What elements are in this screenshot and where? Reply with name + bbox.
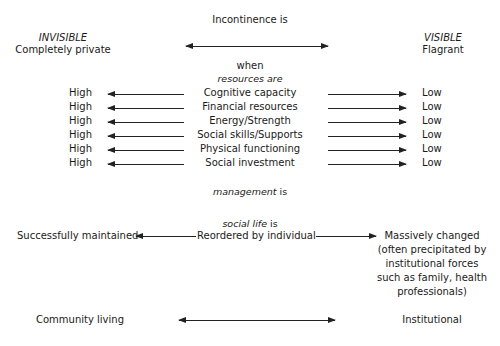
massively-changed-line: (often precipitated by [378, 244, 487, 256]
completely-private-label: Completely private [15, 44, 110, 56]
right-arrow [328, 94, 406, 95]
left-arrow [108, 108, 184, 109]
arrowhead-right-icon [399, 133, 407, 139]
resources-are-label: resources are [217, 73, 282, 85]
arrowhead-left-icon [107, 161, 115, 167]
arrowhead-left-icon [107, 133, 115, 139]
massively-changed-line: Massively changed [384, 230, 479, 242]
low-label: Low [422, 143, 442, 155]
when-label: when [236, 60, 263, 72]
management-is-label: management is [213, 186, 287, 198]
high-label: High [69, 157, 92, 169]
arrowhead-right-icon [399, 105, 407, 111]
arrowhead-right-icon [399, 147, 407, 153]
arrowhead-left-icon [185, 43, 193, 49]
low-label: Low [422, 129, 442, 141]
social-life-italic: social life [222, 218, 267, 229]
arrowhead-left-icon [107, 105, 115, 111]
right-arrow [328, 136, 406, 137]
arrowhead-right-icon [369, 233, 377, 239]
right-arrow [328, 164, 406, 165]
arrowhead-left-icon [107, 147, 115, 153]
left-arrow [108, 94, 184, 95]
right-arrow [328, 150, 406, 151]
resource-label: Physical functioning [200, 143, 300, 155]
massively-changed-line: professionals) [397, 286, 467, 298]
right-arrow [328, 108, 406, 109]
resource-label: Financial resources [202, 101, 297, 113]
reordered-label: Reordered by individual [197, 230, 316, 242]
community-living-label: Community living [36, 314, 124, 326]
social-left-arrow [136, 236, 196, 237]
left-arrow [108, 136, 184, 137]
resource-label: Social investment [205, 157, 294, 169]
resource-label: Energy/Strength [209, 115, 291, 127]
successfully-maintained-label: Successfully maintained [17, 230, 138, 242]
arrowhead-right-icon [399, 161, 407, 167]
institutional-label: Institutional [402, 314, 462, 326]
high-label: High [69, 143, 92, 155]
invisible-label: INVISIBLE [39, 32, 87, 44]
low-label: Low [422, 101, 442, 113]
social-right-arrow [316, 236, 376, 237]
resource-label: Social skills/Supports [197, 129, 302, 141]
arrowhead-left-icon [107, 91, 115, 97]
left-arrow [108, 164, 184, 165]
arrowhead-right-icon [328, 317, 336, 323]
management-rest: is [277, 186, 288, 197]
visible-label: VISIBLE [424, 32, 462, 44]
arrowhead-left-icon [107, 119, 115, 125]
low-label: Low [422, 87, 442, 99]
low-label: Low [422, 115, 442, 127]
massively-changed-line: institutional forces [386, 258, 479, 270]
resource-label: Cognitive capacity [204, 87, 297, 99]
social-life-rest: is [267, 218, 278, 229]
low-label: Low [422, 157, 442, 169]
massively-changed-line: such as family, health [377, 272, 487, 284]
arrowhead-right-icon [399, 119, 407, 125]
arrowhead-right-icon [399, 91, 407, 97]
left-arrow [108, 122, 184, 123]
right-arrow [328, 122, 406, 123]
left-arrow [108, 150, 184, 151]
high-label: High [69, 129, 92, 141]
visibility-double-arrow [186, 46, 328, 47]
arrowhead-left-icon [135, 233, 143, 239]
management-italic: management [213, 186, 277, 197]
social-life-is-label: social life is [222, 218, 277, 230]
flagrant-label: Flagrant [422, 44, 464, 56]
arrowhead-right-icon [321, 43, 329, 49]
arrowhead-left-icon [178, 317, 186, 323]
high-label: High [69, 101, 92, 113]
high-label: High [69, 87, 92, 99]
living-double-arrow [179, 320, 335, 321]
high-label: High [69, 115, 92, 127]
diagram-title: Incontinence is [212, 14, 288, 26]
